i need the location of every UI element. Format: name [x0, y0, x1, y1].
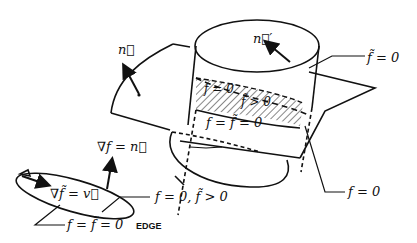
label-n-vector: n⃗ [118, 43, 134, 56]
label-n-prime: n⃗′ [253, 32, 272, 45]
label-fbar-gt-0-inside: f̃ > 0 [241, 96, 271, 108]
diagram-canvas: n⃗ n⃗′ f̃ = 0 f = 0 f̃ > 0 f = f̃ = 0 f … [0, 0, 417, 243]
label-grad-f-eq-n: ∇f = n⃗ [97, 140, 146, 153]
label-fbar-eq-0: f̃ = 0 [367, 51, 399, 64]
label-edge: EDGE [136, 222, 162, 231]
label-grad-fbar-eq-v: ∇f̃ = v⃗ [50, 187, 98, 200]
label-f-eq-fbar-eq-0-bottom: f = f̃ = 0 [67, 218, 123, 231]
label-f-eq-0-inside: f = 0 [204, 83, 234, 95]
label-f-eq-0-right: f = 0 [348, 185, 380, 198]
label-f-eq-0-fbar-gt-0: f = 0, f̃ > 0 [155, 190, 228, 203]
label-f-eq-fbar-eq-0-mid: f = f̃ = 0 [206, 116, 262, 129]
